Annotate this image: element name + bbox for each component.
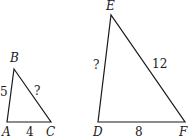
vertex-label-b: B	[9, 51, 19, 65]
side-label-ac: 4	[26, 125, 34, 139]
vertex-label-a: A	[1, 125, 11, 139]
side-label-df: 8	[135, 125, 143, 139]
triangle-def-outline	[98, 15, 185, 122]
vertex-label-e: E	[105, 0, 115, 13]
side-label-de: ?	[93, 58, 99, 72]
side-label-ab: 5	[0, 85, 8, 99]
vertex-label-d: D	[92, 125, 103, 139]
vertex-label-f: F	[178, 125, 188, 139]
triangle-def: E D F ? 12 8	[92, 0, 188, 139]
geometry-diagram: B A C 5 ? 4 E D F ? 12 8	[0, 0, 190, 139]
triangle-abc-outline	[7, 69, 51, 122]
triangle-abc: B A C 5 ? 4	[0, 51, 55, 139]
side-label-bc: ?	[34, 84, 40, 98]
side-label-ef: 12	[152, 57, 167, 71]
vertex-label-c: C	[46, 125, 55, 139]
